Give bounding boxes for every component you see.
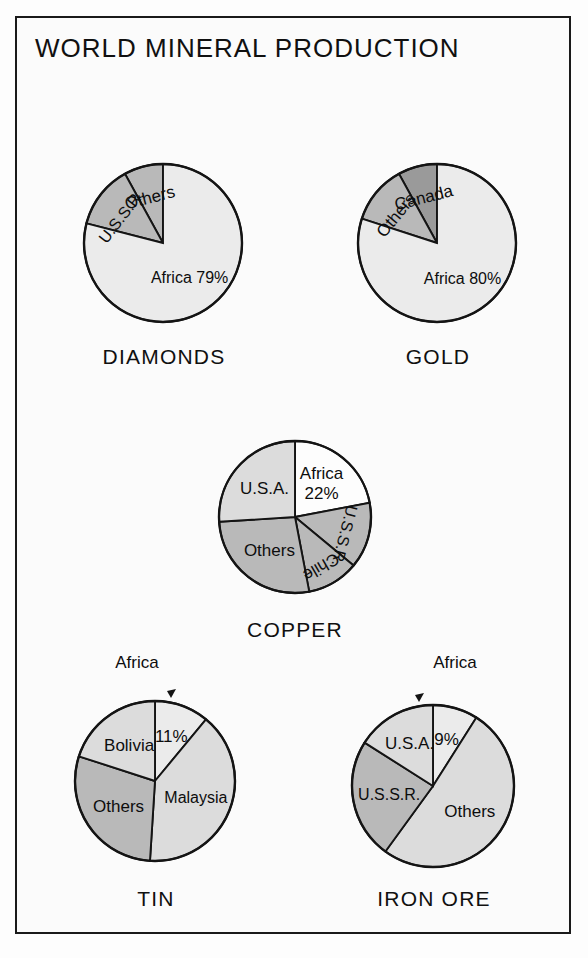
slice-label: Africa22%	[300, 464, 344, 503]
chart-caption-copper: COPPER	[247, 618, 343, 642]
chart-caption-gold: GOLD	[406, 345, 470, 369]
slice-label: 9%	[434, 730, 459, 749]
slice-label: Africa 80%	[424, 270, 501, 287]
pie-chart-diamonds: OthersU.S.S.R.Africa 79%	[84, 164, 242, 322]
callout-label-africa: Africa	[433, 653, 476, 673]
slice-label: Others	[93, 797, 144, 816]
poster-canvas: WORLD MINERAL PRODUCTION OthersU.S.S.R.A…	[0, 0, 588, 958]
callout-arrow-icon	[167, 689, 176, 698]
slice-label: Others	[444, 802, 495, 821]
pie-chart-tin: 11%MalaysiaOthersBolivia	[75, 689, 235, 861]
slice-label: Africa 79%	[151, 269, 228, 286]
slice-label: U.S.A.	[385, 734, 434, 753]
chart-caption-tin: TIN	[137, 887, 174, 911]
pie-chart-gold: CanadaOthersAfrica 80%	[358, 164, 516, 322]
slice-label: Others	[244, 541, 295, 560]
slice-label: U.S.A.	[240, 479, 289, 498]
callout-label-africa: Africa	[115, 653, 158, 673]
callout-arrow-icon	[415, 693, 424, 702]
pie-chart-copper: Africa22%U.S.S.R.ChileOthersU.S.A.	[219, 441, 371, 593]
slice-label: U.S.S.R.	[358, 786, 420, 803]
slice-label: Bolivia	[104, 736, 155, 755]
pie-chart-iron-ore: 9%OthersU.S.S.R.U.S.A.	[352, 693, 514, 867]
chart-caption-iron-ore: IRON ORE	[377, 887, 490, 911]
pie-chart-group: OthersU.S.S.R.Africa 79%CanadaOthersAfri…	[0, 0, 588, 958]
slice-label: 11%	[155, 727, 188, 746]
chart-caption-diamonds: DIAMONDS	[103, 345, 226, 369]
slice-label: Malaysia	[164, 789, 227, 806]
